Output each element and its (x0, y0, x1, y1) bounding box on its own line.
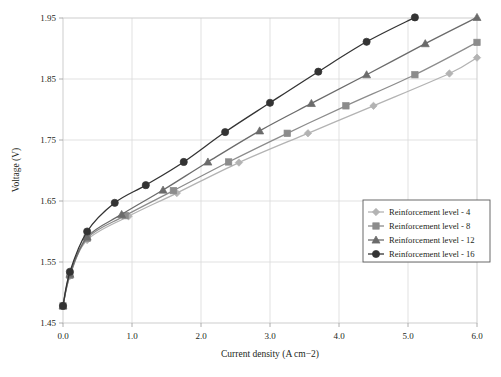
data-point-marker (343, 103, 349, 109)
data-point-marker (59, 302, 66, 309)
y-tick-label: 1.65 (40, 196, 56, 206)
data-point-marker (284, 130, 290, 136)
voltage-current-density-chart: 1.451.551.651.751.851.95 0.01.02.03.04.0… (0, 0, 501, 377)
legend-item-label: Reinforcement level - 12 (389, 235, 475, 245)
y-axis-label: Voltage (V) (11, 148, 22, 192)
legend-item-label: Reinforcement level - 16 (389, 249, 475, 259)
data-point-marker (315, 68, 322, 75)
figure-background (0, 0, 501, 377)
legend-item-label: Reinforcement level - 4 (389, 207, 471, 217)
data-point-marker (142, 182, 149, 189)
x-tick-label: 1.0 (126, 331, 138, 341)
data-point-marker (222, 128, 229, 135)
x-tick-label: 0.0 (57, 331, 69, 341)
data-point-marker (363, 38, 370, 45)
x-tick-label: 6.0 (471, 331, 483, 341)
x-tick-label: 5.0 (402, 331, 414, 341)
x-tick-label: 2.0 (195, 331, 207, 341)
chart-legend[interactable]: Reinforcement level - 4Reinforcement lev… (363, 200, 490, 262)
data-point-marker (111, 199, 118, 206)
data-point-marker (225, 159, 231, 165)
x-tick-label: 4.0 (333, 331, 345, 341)
legend-item-label: Reinforcement level - 8 (389, 221, 470, 231)
y-tick-label: 1.45 (40, 318, 56, 328)
data-point-marker (180, 158, 187, 165)
data-point-marker (84, 228, 91, 235)
data-point-marker (412, 72, 418, 78)
x-tick-label: 3.0 (264, 331, 276, 341)
data-point-marker (474, 39, 480, 45)
data-point-marker (411, 14, 418, 21)
x-axis-label: Current density (A cm−2) (221, 349, 319, 360)
data-point-marker (170, 187, 176, 193)
legend-marker-icon (372, 250, 379, 257)
data-point-marker (66, 268, 73, 275)
y-tick-label: 1.75 (40, 135, 56, 145)
y-tick-label: 1.85 (40, 74, 56, 84)
legend-marker-icon (373, 223, 379, 229)
y-tick-label: 1.95 (40, 13, 56, 23)
data-point-marker (266, 99, 273, 106)
y-tick-label: 1.55 (40, 257, 56, 267)
